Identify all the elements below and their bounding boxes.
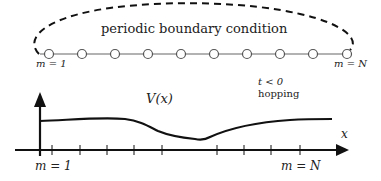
periodic-boundary-label: periodic boundary condition (101, 22, 287, 35)
site-node (144, 50, 153, 59)
hopping-condition-label: t < 0 (258, 77, 283, 87)
y-axis-arrowhead-icon (34, 92, 46, 107)
site-node (177, 50, 186, 59)
chain-first-site-label: m = 1 (36, 59, 67, 69)
site-node (78, 50, 87, 59)
axis-last-site-label: m = N (281, 160, 321, 172)
site-node (276, 50, 285, 59)
x-axis-arrowhead-icon (336, 144, 349, 156)
site-node (243, 50, 252, 59)
site-node (210, 50, 219, 59)
axis-first-site-label: m = 1 (35, 160, 72, 172)
potential-curve-label: V(x) (146, 92, 173, 105)
chain-last-site-label: m = N (334, 59, 367, 69)
site-node (309, 50, 318, 59)
x-axis-label: x (341, 128, 348, 140)
hopping-label: hopping (258, 89, 299, 99)
site-node (111, 50, 120, 59)
potential-curve (40, 118, 332, 139)
